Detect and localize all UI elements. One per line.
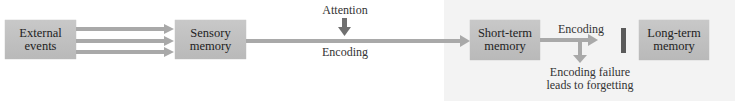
node-sensory-memory: Sensory memory [175,20,246,59]
node-label: External events [5,27,76,53]
input-arrows [76,24,174,57]
node-label: Short-term memory [475,27,535,53]
node-long-term-memory: Long-term memory [639,20,709,60]
node-label: Sensory memory [181,27,241,53]
attention-arrow [342,18,347,28]
label-encoding-2: Encoding [554,23,608,36]
encoding-arrow [246,39,462,43]
node-external-events: External events [5,20,76,59]
encoding-arrow-2 [540,38,592,42]
barrier-bar [621,28,626,53]
failure-line-2: leads to forgetting [535,79,645,92]
label-attention: Attention [318,4,372,17]
node-short-term-memory: Short-term memory [470,20,540,60]
label-encoding: Encoding [318,46,372,59]
failure-arrow [578,40,582,56]
label-encoding-failure: Encoding failure leads to forgetting [535,66,645,92]
node-label: Long-term memory [644,27,704,53]
